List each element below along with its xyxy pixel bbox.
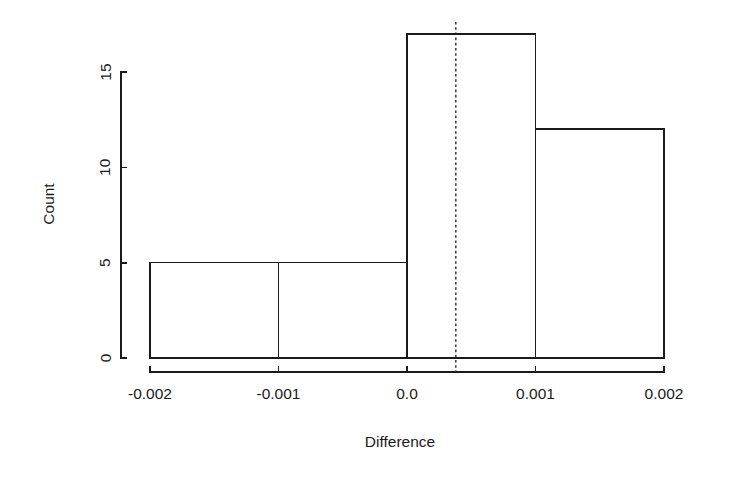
histogram-bar (407, 34, 536, 358)
histogram-bar (150, 263, 279, 358)
x-axis: -0.002 -0.001 0.0 0.001 0.002 Difference (128, 366, 683, 450)
histogram-bar (279, 263, 408, 358)
x-tick-label-000: 0.0 (396, 385, 418, 402)
y-tick-label-15: 15 (97, 63, 114, 80)
bars-group (150, 34, 664, 358)
y-axis: 15 10 5 0 Count (40, 63, 128, 362)
histogram-bar (536, 129, 665, 358)
y-axis-line (121, 72, 127, 358)
plot-canvas: 15 10 5 0 Count -0.002 -0.001 0.0 0.001 … (0, 0, 730, 484)
y-tick-label-5: 5 (97, 258, 114, 267)
x-tick-label-neg0002: -0.002 (128, 385, 172, 402)
x-axis-title: Difference (365, 433, 435, 450)
x-tick-label-neg0001: -0.001 (257, 385, 301, 402)
x-tick-label-0001: 0.001 (516, 385, 555, 402)
x-tick-label-0002: 0.002 (645, 385, 684, 402)
y-axis-title: Count (40, 183, 57, 225)
y-tick-label-10: 10 (97, 158, 114, 176)
histogram-figure: 15 10 5 0 Count -0.002 -0.001 0.0 0.001 … (0, 0, 730, 484)
y-tick-label-0: 0 (97, 353, 114, 362)
